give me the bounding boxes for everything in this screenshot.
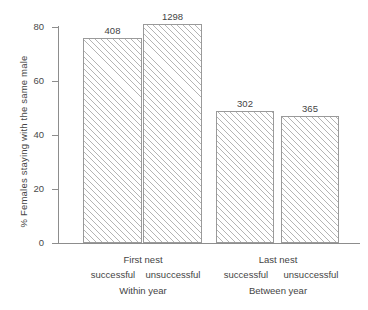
x-group-label-last-nest: Last nest bbox=[216, 255, 340, 265]
bar-label-365: 365 bbox=[281, 104, 339, 114]
bar-label-408: 408 bbox=[83, 26, 142, 36]
y-tick-label-80: 80 bbox=[14, 22, 44, 32]
bar-first-nest-successful bbox=[83, 38, 142, 243]
y-tick-label-20: 20 bbox=[14, 184, 44, 194]
x-axis-line bbox=[58, 243, 360, 244]
x-tick-label-unsuccessful-2: unsuccessful bbox=[266, 270, 356, 280]
x-period-label-between-year: Between year bbox=[216, 286, 340, 296]
y-tick-0 bbox=[52, 243, 58, 244]
y-tick-label-0: 0 bbox=[14, 238, 44, 248]
bar-last-nest-unsuccessful bbox=[281, 116, 339, 243]
bar-label-1298: 1298 bbox=[143, 12, 202, 22]
y-tick-label-60: 60 bbox=[14, 76, 44, 86]
plot-area bbox=[58, 27, 360, 243]
x-period-label-within-year: Within year bbox=[83, 286, 203, 296]
y-tick-label-40: 40 bbox=[14, 130, 44, 140]
bar-first-nest-unsuccessful bbox=[143, 24, 202, 243]
bar-chart: % Females staying with the same male 80 … bbox=[0, 0, 368, 310]
bar-last-nest-successful bbox=[216, 111, 274, 243]
bar-label-302: 302 bbox=[216, 99, 274, 109]
x-group-label-first-nest: First nest bbox=[83, 255, 203, 265]
y-axis-title: % Females staying with the same male bbox=[18, 27, 29, 257]
